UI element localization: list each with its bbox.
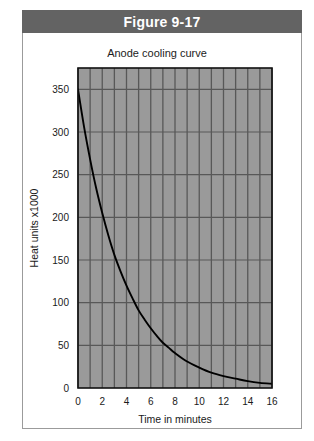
y-tick-label: 50 bbox=[58, 340, 70, 351]
y-axis-title: Heat units x1000 bbox=[28, 188, 40, 267]
y-tick-label: 350 bbox=[52, 84, 69, 95]
x-axis-tick-labels: 0246810121416 bbox=[75, 396, 278, 407]
y-tick-label: 150 bbox=[52, 255, 69, 266]
figure-container: Figure 9-17 Anode cooling curve 02468101… bbox=[0, 0, 314, 441]
x-tick-label: 12 bbox=[218, 396, 230, 407]
y-tick-label: 250 bbox=[52, 169, 69, 180]
x-tick-label: 14 bbox=[242, 396, 254, 407]
y-tick-label: 0 bbox=[63, 383, 69, 394]
y-tick-label: 100 bbox=[52, 297, 69, 308]
x-tick-label: 16 bbox=[266, 396, 278, 407]
y-tick-label: 200 bbox=[52, 212, 69, 223]
x-tick-label: 8 bbox=[172, 396, 178, 407]
x-tick-label: 6 bbox=[148, 396, 154, 407]
y-tick-label: 300 bbox=[52, 127, 69, 138]
x-axis-title: Time in minutes bbox=[138, 413, 212, 425]
x-tick-label: 4 bbox=[124, 396, 130, 407]
x-tick-label: 0 bbox=[75, 396, 81, 407]
y-axis-tick-labels: 050100150200250300350 bbox=[52, 84, 69, 394]
x-tick-label: 2 bbox=[99, 396, 105, 407]
x-tick-label: 10 bbox=[194, 396, 206, 407]
chart-plot: 0246810121416 050100150200250300350 Time… bbox=[0, 0, 314, 441]
